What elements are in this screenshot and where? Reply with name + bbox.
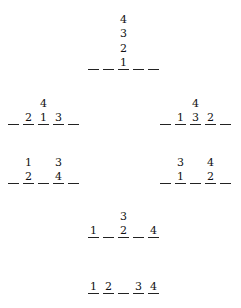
slot [53,183,64,184]
slot [88,293,99,294]
slot [148,69,159,70]
slot [190,183,201,184]
item-digit: 2 [118,225,129,236]
slot [103,293,114,294]
item-digit: 4 [118,14,129,25]
item-digit: 4 [38,98,49,109]
slot [88,69,99,70]
item-digit: 4 [148,281,159,292]
slot [205,183,216,184]
item-digit: 3 [133,281,144,292]
slot [148,237,159,238]
item-digit: 4 [205,157,216,168]
item-digit: 1 [88,281,99,292]
item-digit: 2 [23,112,34,123]
item-digit: 4 [53,171,64,182]
item-digit: 2 [118,43,129,54]
item-digit: 4 [190,98,201,109]
item-digit: 1 [88,225,99,236]
item-digit: 2 [205,171,216,182]
slot [160,124,171,125]
slot [190,124,201,125]
item-digit: 3 [53,112,64,123]
slot [23,183,34,184]
item-digit: 3 [175,157,186,168]
slot [160,183,171,184]
slot [118,237,129,238]
slot [8,124,19,125]
slot [148,293,159,294]
item-digit: 2 [205,112,216,123]
slot [175,183,186,184]
slot [38,183,49,184]
slot [175,124,186,125]
slot [23,124,34,125]
slot [118,69,129,70]
slot [133,293,144,294]
slot [133,69,144,70]
slot [68,183,79,184]
slot [133,237,144,238]
slot [220,124,231,125]
slot [68,124,79,125]
item-digit: 1 [118,57,129,68]
slot [103,69,114,70]
slot [205,124,216,125]
item-digit: 3 [118,28,129,39]
slot [53,124,64,125]
slot [103,237,114,238]
slot [118,293,129,294]
item-digit: 1 [175,171,186,182]
item-digit: 3 [190,112,201,123]
item-digit: 3 [118,211,129,222]
item-digit: 2 [23,171,34,182]
item-digit: 1 [175,112,186,123]
slot [88,237,99,238]
slot [220,183,231,184]
item-digit: 1 [38,112,49,123]
item-digit: 2 [103,281,114,292]
item-digit: 3 [53,157,64,168]
slot [8,183,19,184]
item-digit: 4 [148,225,159,236]
item-digit: 1 [23,157,34,168]
slot [38,124,49,125]
